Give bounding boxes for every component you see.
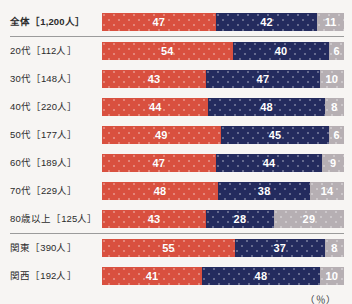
bar-value-label: 48 — [255, 271, 268, 282]
bar-value-label: 48 — [154, 186, 167, 197]
bar-value-label: 6 — [334, 130, 340, 141]
bar-segment-2: 48 — [202, 267, 319, 285]
row-label: 80歳以上［125人］ — [10, 214, 102, 224]
bar-segment-1: 47 — [102, 13, 216, 31]
bar-row: 30代［148人］434710 — [10, 65, 344, 93]
bar-segment-3: 29 — [274, 210, 344, 228]
bar-segment-2: 48 — [208, 98, 324, 116]
bar-track: 44488 — [102, 98, 344, 116]
bar-segment-1: 54 — [102, 42, 233, 60]
bar-value-label: 37 — [274, 243, 287, 254]
bar-track: 55378 — [102, 239, 344, 257]
bar-segment-1: 43 — [102, 210, 206, 228]
bar-track: 414810 — [102, 267, 344, 285]
bar-row: 60代［189人］47449 — [10, 149, 344, 177]
bar-value-label: 9 — [330, 158, 336, 169]
bar-value-label: 14 — [321, 186, 334, 197]
row-label: 70代［229人］ — [10, 186, 102, 196]
bar-track: 54406 — [102, 42, 344, 60]
bar-track: 483814 — [102, 182, 344, 200]
bar-row: 20代［112人］54406 — [10, 37, 344, 65]
bar-track: 47449 — [102, 154, 344, 172]
bar-segment-1: 47 — [102, 154, 216, 172]
row-label: 全体［1,200人］ — [10, 17, 102, 27]
bar-row: 70代［229人］483814 — [10, 177, 344, 205]
bar-track: 432829 — [102, 210, 344, 228]
row-label: 60代［189人］ — [10, 158, 102, 168]
bar-row: 80歳以上［125人］432829 — [10, 205, 344, 233]
bar-value-label: 47 — [153, 17, 166, 28]
bar-value-label: 43 — [148, 214, 161, 225]
row-label: 関東［390人］ — [10, 243, 102, 253]
bar-value-label: 40 — [275, 46, 288, 57]
bar-value-label: 42 — [260, 17, 273, 28]
bar-segment-2: 37 — [235, 239, 325, 257]
bar-segment-3: 6 — [329, 126, 344, 144]
bar-value-label: 8 — [331, 243, 337, 254]
row-label: 40代［220人］ — [10, 102, 102, 112]
bar-segment-2: 42 — [216, 13, 318, 31]
bar-segment-3: 14 — [310, 182, 344, 200]
row-label: 50代［177人］ — [10, 130, 102, 140]
bar-segment-2: 40 — [233, 42, 330, 60]
bar-value-label: 10 — [325, 271, 338, 282]
bar-segment-1: 41 — [102, 267, 202, 285]
bar-track: 434710 — [102, 70, 344, 88]
bar-segment-2: 44 — [216, 154, 322, 172]
bar-segment-3: 11 — [317, 13, 344, 31]
bar-value-label: 41 — [146, 271, 159, 282]
chart-rows: 全体［1,200人］47421120代［112人］5440630代［148人］4… — [10, 8, 344, 290]
bar-segment-3: 9 — [322, 154, 344, 172]
bar-value-label: 8 — [331, 102, 337, 113]
bar-row: 関東［390人］55378 — [10, 234, 344, 262]
bar-segment-2: 47 — [206, 70, 320, 88]
bar-track: 49456 — [102, 126, 344, 144]
bar-segment-3: 10 — [320, 70, 344, 88]
bar-value-label: 44 — [149, 102, 162, 113]
bar-value-label: 10 — [326, 74, 339, 85]
bar-value-label: 29 — [303, 214, 316, 225]
row-label: 関西［192人］ — [10, 271, 102, 281]
bar-track: 474211 — [102, 13, 344, 31]
bar-value-label: 28 — [234, 214, 247, 225]
bar-segment-2: 45 — [221, 126, 330, 144]
bar-segment-3: 8 — [325, 98, 344, 116]
bar-value-label: 54 — [161, 46, 174, 57]
bar-value-label: 11 — [325, 17, 337, 28]
unit-note: （％） — [10, 290, 344, 304]
bar-value-label: 49 — [155, 130, 168, 141]
bar-value-label: 55 — [162, 243, 175, 254]
bar-value-label: 47 — [153, 158, 166, 169]
stacked-bar-chart: 全体［1,200人］47421120代［112人］5440630代［148人］4… — [0, 0, 352, 304]
bar-row: 全体［1,200人］474211 — [10, 8, 344, 36]
row-label: 30代［148人］ — [10, 74, 102, 84]
bar-segment-1: 43 — [102, 70, 206, 88]
bar-value-label: 43 — [148, 74, 161, 85]
row-label: 20代［112人］ — [10, 46, 102, 56]
bar-value-label: 47 — [257, 74, 270, 85]
bar-segment-2: 38 — [218, 182, 310, 200]
bar-segment-1: 49 — [102, 126, 221, 144]
bar-value-label: 6 — [334, 46, 340, 57]
bar-row: 50代［177人］49456 — [10, 121, 344, 149]
bar-segment-2: 28 — [206, 210, 274, 228]
bar-segment-3: 6 — [329, 42, 344, 60]
bar-segment-1: 44 — [102, 98, 208, 116]
bar-segment-1: 55 — [102, 239, 235, 257]
bar-segment-3: 8 — [325, 239, 344, 257]
bar-value-label: 48 — [260, 102, 273, 113]
bar-row: 関西［192人］414810 — [10, 262, 344, 290]
bar-row: 40代［220人］44488 — [10, 93, 344, 121]
bar-value-label: 45 — [269, 130, 282, 141]
bar-segment-1: 48 — [102, 182, 218, 200]
bar-value-label: 38 — [258, 186, 271, 197]
bar-value-label: 44 — [263, 158, 276, 169]
bar-segment-3: 10 — [320, 267, 344, 285]
